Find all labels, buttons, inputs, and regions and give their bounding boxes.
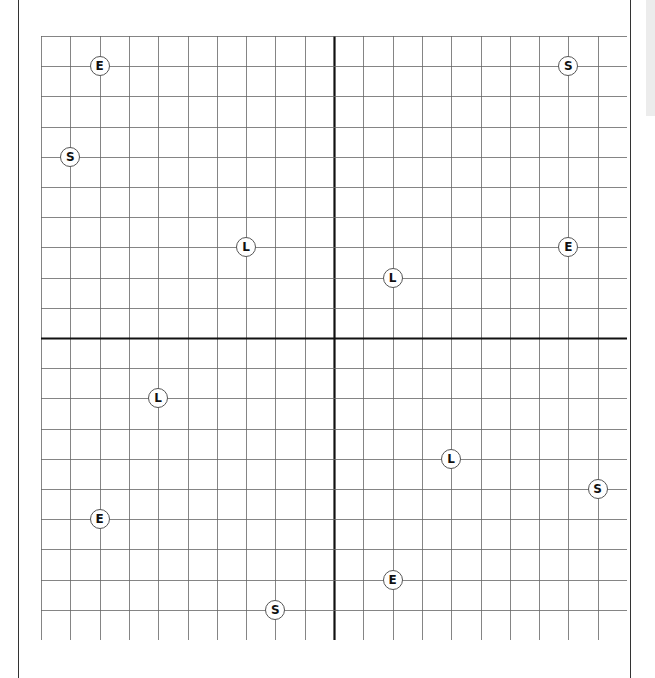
page-border-left	[18, 0, 19, 678]
grid-marker-e: E	[90, 56, 110, 76]
side-strip	[646, 0, 655, 116]
grid-marker-l: L	[441, 449, 461, 469]
page-border-right	[630, 0, 631, 678]
grid-lines	[41, 36, 627, 640]
grid-marker-s: S	[60, 147, 80, 167]
grid-marker-s: S	[588, 479, 608, 499]
grid-marker-e: E	[383, 570, 403, 590]
coordinate-grid: ESLSELLLSEES	[41, 36, 627, 640]
grid-marker-l: L	[383, 268, 403, 288]
grid-marker-e: E	[90, 509, 110, 529]
